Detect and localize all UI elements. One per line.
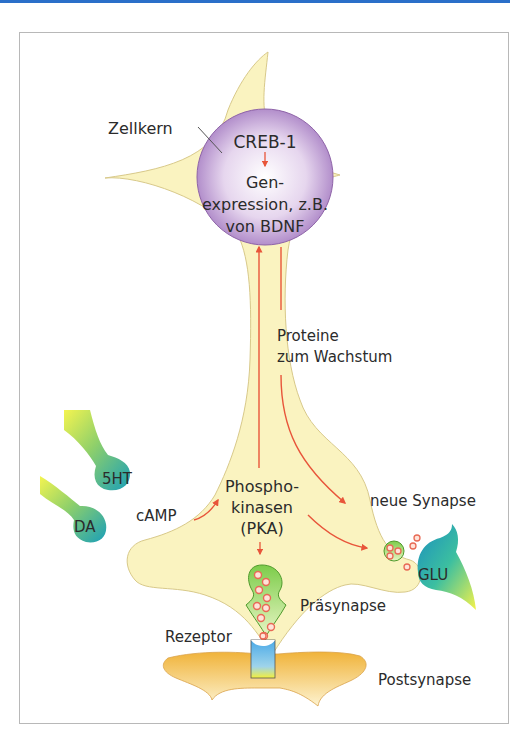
neuron-diagram: Zellkern CREB-1 Gen- expression, z.B. vo… xyxy=(0,0,523,736)
label-proteins-line2: zum Wachstum xyxy=(277,348,392,366)
label-pka-line3: (PKA) xyxy=(240,519,283,538)
label-serotonin: 5HT xyxy=(102,470,133,488)
label-receptor: Rezeptor xyxy=(165,628,233,646)
label-gene-line2: expression, z.B. xyxy=(202,195,328,214)
label-proteins-line1: Proteine xyxy=(277,327,339,345)
label-gene-line1: Gen- xyxy=(246,173,284,192)
label-gene-line3: von BDNF xyxy=(226,217,305,236)
label-creb: CREB-1 xyxy=(233,132,296,152)
label-glutamate: GLU xyxy=(418,566,448,584)
label-postsynapse: Postsynapse xyxy=(378,671,471,689)
label-camp: cAMP xyxy=(136,507,177,525)
label-pka-line1: Phospho- xyxy=(225,477,299,496)
label-dopamine: DA xyxy=(74,518,96,536)
label-new-synapse: neue Synapse xyxy=(370,492,476,510)
bound-vesicle xyxy=(260,633,266,639)
label-pka-line2: kinasen xyxy=(231,498,293,517)
label-nucleus: Zellkern xyxy=(108,119,173,138)
label-presynapse: Präsynapse xyxy=(300,597,386,615)
